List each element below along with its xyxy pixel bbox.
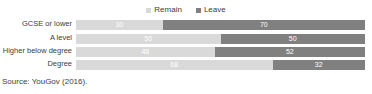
plot-area: GCSE or lower 30 70 A level 50 50 bbox=[0, 18, 372, 74]
bar-segment-remain: 68 bbox=[76, 60, 273, 70]
legend-item-leave: Leave bbox=[196, 6, 226, 14]
bar-row-degree: Degree 68 32 bbox=[0, 60, 372, 70]
category-label: A level bbox=[0, 33, 72, 43]
stacked-bar: 48 52 bbox=[76, 47, 365, 57]
legend-label-remain: Remain bbox=[154, 6, 182, 14]
bar-value-label: 50 bbox=[289, 34, 297, 44]
bar-value-label: 70 bbox=[260, 20, 268, 30]
bar-row-a-level: A level 50 50 bbox=[0, 34, 372, 44]
bar-value-label: 48 bbox=[141, 47, 149, 57]
square-swatch-icon bbox=[196, 8, 201, 13]
bar-segment-remain: 48 bbox=[76, 47, 215, 57]
bar-segment-leave: 32 bbox=[273, 60, 365, 70]
bar-segment-remain: 50 bbox=[76, 34, 221, 44]
category-label: Higher below degree bbox=[0, 46, 72, 56]
stacked-bar-chart: Remain Leave GCSE or lower 30 70 A level bbox=[0, 0, 372, 94]
stacked-bar: 68 32 bbox=[76, 60, 365, 70]
stacked-bar: 30 70 bbox=[76, 20, 365, 30]
legend-label-leave: Leave bbox=[204, 6, 226, 14]
bar-value-label: 52 bbox=[286, 47, 294, 57]
bar-value-label: 32 bbox=[315, 60, 323, 70]
bar-segment-leave: 52 bbox=[215, 47, 365, 57]
category-label: Degree bbox=[0, 59, 72, 69]
bar-value-label: 50 bbox=[144, 34, 152, 44]
bar-row-higher-below-degree: Higher below degree 48 52 bbox=[0, 47, 372, 57]
bar-value-label: 30 bbox=[115, 20, 123, 30]
square-swatch-icon bbox=[146, 8, 151, 13]
bar-segment-leave: 70 bbox=[163, 20, 365, 30]
bar-value-label: 68 bbox=[170, 60, 178, 70]
bar-row-gcse-or-lower: GCSE or lower 30 70 bbox=[0, 20, 372, 30]
category-label: GCSE or lower bbox=[0, 19, 72, 29]
bar-segment-leave: 50 bbox=[221, 34, 366, 44]
bar-segment-remain: 30 bbox=[76, 20, 163, 30]
stacked-bar: 50 50 bbox=[76, 34, 365, 44]
source-note: Source: YouGov (2016). bbox=[2, 76, 87, 88]
chart-legend: Remain Leave bbox=[0, 4, 372, 16]
legend-item-remain: Remain bbox=[146, 6, 182, 14]
